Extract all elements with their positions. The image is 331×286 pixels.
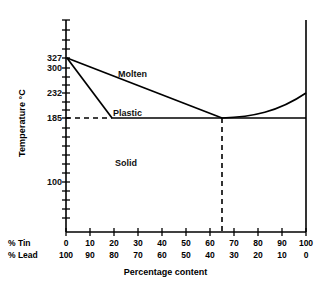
- x-tick-label-tin-80: 80: [247, 239, 269, 248]
- x-tick-label-lead-20: 20: [247, 251, 269, 260]
- x-tick-label-lead-40: 40: [199, 251, 221, 260]
- x-tick-label-lead-30: 30: [223, 251, 245, 260]
- region-label-plastic: Plastic: [113, 109, 142, 118]
- x-axis-title: Percentage content: [0, 267, 331, 277]
- x-tick-label-lead-0: 0: [295, 251, 317, 260]
- y-tick-label-327: 327: [28, 54, 62, 63]
- x-tick-label-tin-50: 50: [175, 239, 197, 248]
- x-tick-label-tin-100: 100: [295, 239, 317, 248]
- x-tick-label-lead-100: 100: [55, 251, 77, 260]
- x-tick-label-lead-70: 70: [127, 251, 149, 260]
- x-tick-label-tin-40: 40: [151, 239, 173, 248]
- x-axis-lead-caption: % Lead: [8, 251, 38, 260]
- x-tick-label-lead-90: 90: [79, 251, 101, 260]
- x-tick-label-lead-50: 50: [175, 251, 197, 260]
- x-axis-lead-row: % Lead 1009080706050403020100: [0, 251, 331, 262]
- y-axis-title: Temperature °C: [17, 63, 27, 183]
- y-tick-label-100: 100: [28, 178, 62, 187]
- x-axis-tin-row: % Tin 0102030405060708090100: [0, 239, 331, 250]
- x-tick-label-lead-10: 10: [271, 251, 293, 260]
- x-tick-label-tin-60: 60: [199, 239, 221, 248]
- x-tick-label-tin-20: 20: [103, 239, 125, 248]
- region-label-molten: Molten: [118, 70, 147, 79]
- x-tick-label-tin-10: 10: [79, 239, 101, 248]
- x-tick-label-tin-70: 70: [223, 239, 245, 248]
- y-tick-label-300: 300: [28, 64, 62, 73]
- y-tick-label-232: 232: [28, 89, 62, 98]
- x-tick-label-tin-30: 30: [127, 239, 149, 248]
- region-label-solid: Solid: [115, 159, 137, 168]
- x-tick-label-tin-0: 0: [55, 239, 77, 248]
- x-axis-tin-caption: % Tin: [8, 239, 31, 248]
- x-tick-label-lead-60: 60: [151, 251, 173, 260]
- y-tick-label-185: 185: [28, 114, 62, 123]
- x-tick-label-tin-90: 90: [271, 239, 293, 248]
- x-tick-label-lead-80: 80: [103, 251, 125, 260]
